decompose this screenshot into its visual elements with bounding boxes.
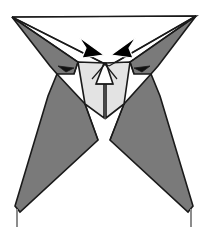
origami-diagram-figure	[0, 0, 218, 231]
origami-diagram-canvas	[0, 0, 218, 231]
